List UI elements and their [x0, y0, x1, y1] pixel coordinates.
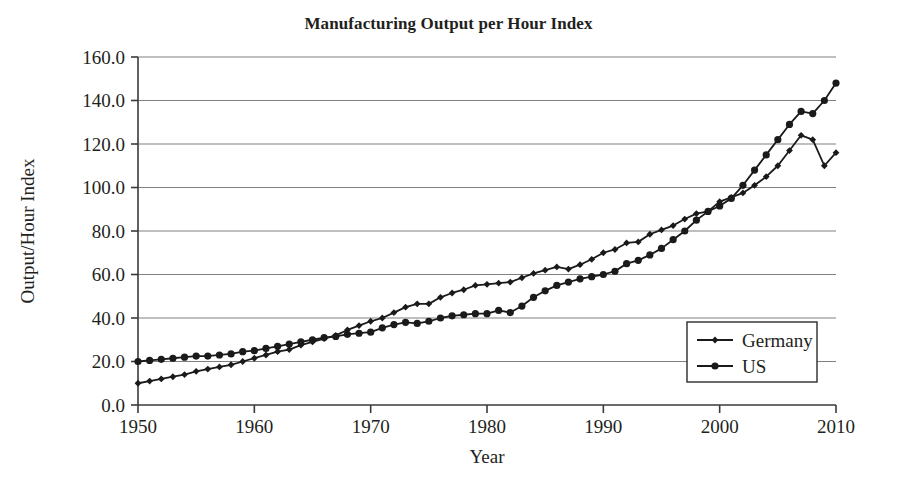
data-point-marker — [297, 338, 304, 345]
data-point-marker — [146, 378, 153, 385]
data-point-marker — [169, 355, 176, 362]
data-point-marker — [600, 271, 607, 278]
x-axis-tick-label: 1990 — [584, 416, 622, 437]
data-point-marker — [367, 318, 374, 325]
x-axis-tick-label: 1980 — [468, 416, 506, 437]
data-point-marker — [495, 280, 502, 287]
data-point-marker — [437, 294, 444, 301]
y-axis-tick-label: 160.0 — [82, 47, 125, 68]
y-axis-tick-label: 80.0 — [92, 221, 125, 242]
data-point-marker — [274, 343, 281, 350]
data-point-marker — [356, 322, 363, 329]
data-point-marker — [402, 319, 409, 326]
x-axis-tick-label: 2000 — [701, 416, 739, 437]
data-point-marker — [542, 287, 549, 294]
data-point-marker — [553, 263, 560, 270]
data-point-marker — [472, 310, 479, 317]
data-point-marker — [425, 300, 432, 307]
data-point-marker — [239, 358, 246, 365]
data-point-marker — [519, 274, 526, 281]
data-point-marker — [670, 222, 677, 229]
data-point-marker — [425, 318, 432, 325]
data-point-marker — [577, 261, 584, 268]
data-point-marker — [530, 270, 537, 277]
legend-label-us: US — [742, 356, 766, 377]
data-point-marker — [495, 307, 502, 314]
data-point-marker — [216, 351, 223, 358]
data-point-marker — [518, 302, 525, 309]
data-point-marker — [507, 279, 514, 286]
data-point-marker — [565, 279, 572, 286]
data-point-marker — [832, 80, 839, 87]
data-point-marker — [693, 210, 700, 217]
data-point-marker — [821, 97, 828, 104]
data-point-marker — [576, 275, 583, 282]
data-point-marker — [483, 310, 490, 317]
data-point-marker — [728, 195, 735, 202]
legend-label-germany: Germany — [742, 330, 813, 351]
data-point-marker — [390, 321, 397, 328]
data-point-marker — [658, 245, 665, 252]
data-point-marker — [460, 286, 467, 293]
data-point-marker — [774, 136, 781, 143]
data-point-marker — [309, 336, 316, 343]
chart-legend: GermanyUS — [687, 322, 817, 382]
data-point-marker — [251, 347, 258, 354]
data-point-marker — [588, 273, 595, 280]
data-point-marker — [693, 217, 700, 224]
data-point-marker — [600, 249, 607, 256]
data-point-marker — [263, 352, 270, 359]
x-axis-tick-label: 1950 — [119, 416, 157, 437]
data-point-marker — [332, 333, 339, 340]
data-point-marker — [379, 315, 386, 322]
data-point-marker — [193, 368, 200, 375]
data-point-marker — [646, 251, 653, 258]
data-point-marker — [355, 330, 362, 337]
y-axis-tick-label: 120.0 — [82, 134, 125, 155]
data-point-marker — [565, 266, 572, 273]
data-point-marker — [228, 361, 235, 368]
data-point-marker — [379, 324, 386, 331]
data-point-marker — [623, 240, 630, 247]
data-point-marker — [611, 268, 618, 275]
data-point-marker — [460, 311, 467, 318]
data-point-marker — [239, 348, 246, 355]
data-point-marker — [344, 331, 351, 338]
data-point-marker — [262, 345, 269, 352]
data-point-marker — [553, 282, 560, 289]
data-point-marker — [134, 358, 141, 365]
data-point-marker — [658, 227, 665, 234]
data-point-marker — [809, 110, 816, 117]
data-point-marker — [286, 341, 293, 348]
data-point-marker — [402, 304, 409, 311]
data-point-marker — [507, 309, 514, 316]
data-point-marker — [158, 356, 165, 363]
y-axis-tick-label: 20.0 — [92, 351, 125, 372]
y-axis-tick-label: 0.0 — [101, 395, 125, 416]
series-line — [138, 83, 836, 361]
data-point-marker — [181, 371, 188, 378]
data-point-marker — [739, 182, 746, 189]
data-point-marker — [763, 151, 770, 158]
y-axis-tick-label: 140.0 — [82, 90, 125, 111]
data-point-marker — [449, 290, 456, 297]
data-point-marker — [449, 312, 456, 319]
data-point-marker — [681, 216, 688, 223]
y-axis-tick-label: 40.0 — [92, 308, 125, 329]
data-point-marker — [321, 334, 328, 341]
data-point-marker — [670, 236, 677, 243]
data-point-marker — [612, 246, 619, 253]
data-point-marker — [391, 309, 398, 316]
data-point-marker — [704, 208, 711, 215]
data-point-marker — [158, 376, 165, 383]
data-point-marker — [170, 373, 177, 380]
data-point-marker — [204, 366, 211, 373]
data-point-marker — [809, 136, 816, 143]
data-point-marker — [204, 352, 211, 359]
data-point-marker — [751, 167, 758, 174]
data-point-marker — [623, 260, 630, 267]
data-point-marker — [414, 300, 421, 307]
x-axis-tick-label: 2010 — [817, 416, 855, 437]
y-axis-title: Output/Hour Index — [17, 158, 38, 304]
data-point-marker — [472, 282, 479, 289]
